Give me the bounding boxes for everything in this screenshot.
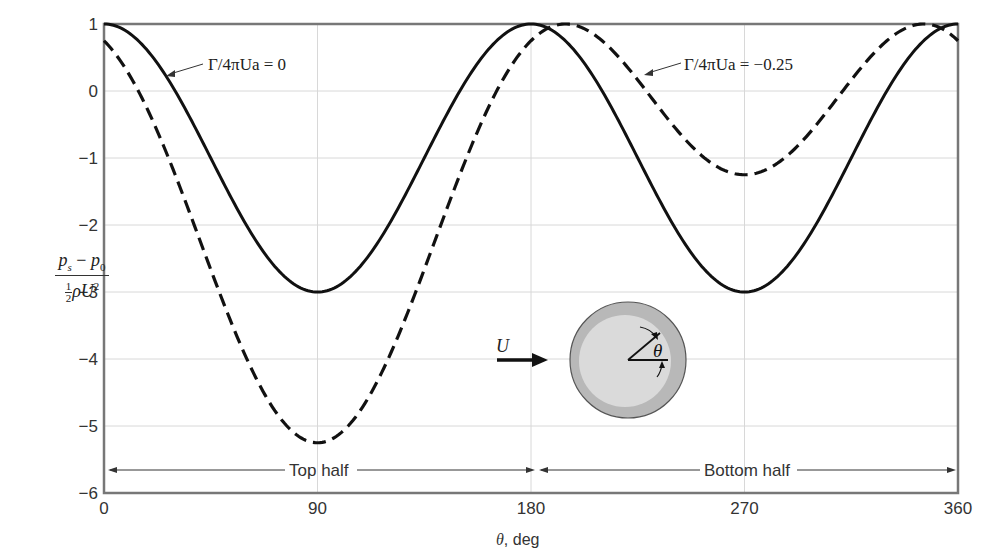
y-label-sup-2: 2 <box>94 280 100 292</box>
x-axis-label: θ, deg <box>496 531 539 549</box>
y-label-rho-u: ρU <box>72 281 94 301</box>
y-label-sub-0: 0 <box>100 261 106 273</box>
grid-lines <box>104 24 958 493</box>
arrow-left-icon <box>108 467 117 473</box>
annotation-solid: Γ/4πUa = 0 <box>166 55 286 77</box>
arrowhead-icon <box>532 353 548 367</box>
y-tick-label: −1 <box>79 149 98 168</box>
span-top-half: Top half <box>108 461 535 480</box>
x-label-theta: θ <box>496 531 504 548</box>
angle-label: θ <box>653 340 662 361</box>
x-tick-label: 270 <box>730 499 758 518</box>
x-axis-ticks: 090180270360 <box>99 499 972 518</box>
arrow-right-icon <box>947 467 956 473</box>
annotation-dashed: Γ/4πUa = −0.25 <box>644 55 793 76</box>
cylinder-inner <box>579 315 671 407</box>
x-tick-label: 180 <box>517 499 545 518</box>
x-tick-label: 0 <box>99 499 108 518</box>
span-bottom-half: Bottom half <box>539 461 956 480</box>
y-label-minus: − <box>72 250 91 270</box>
y-tick-label: −5 <box>79 417 98 436</box>
y-label-p0: p <box>91 250 100 270</box>
velocity-label: U <box>496 336 510 356</box>
y-tick-label: −2 <box>79 216 98 235</box>
y-tick-label: −6 <box>79 484 98 503</box>
chart-canvas: 10−1−2−3−4−5−6 090180270360 Γ/4πUa = 0 Γ… <box>0 0 988 555</box>
top-half-label: Top half <box>289 461 349 480</box>
arrowhead-icon <box>166 70 175 77</box>
x-label-unit: , deg <box>504 531 540 548</box>
arrow-left-icon <box>539 467 548 473</box>
y-axis-label: ps − p0 12ρU2 <box>40 250 124 304</box>
y-tick-label: 1 <box>89 15 98 34</box>
annotation-solid-label: Γ/4πUa = 0 <box>208 55 286 74</box>
y-label-p: p <box>59 250 68 270</box>
x-tick-label: 360 <box>944 499 972 518</box>
arrowhead-icon <box>644 69 653 76</box>
y-tick-label: −4 <box>79 350 98 369</box>
x-tick-label: 90 <box>308 499 327 518</box>
cylinder-inset: U θ <box>496 302 686 418</box>
y-tick-label: 0 <box>89 82 98 101</box>
bottom-half-label: Bottom half <box>704 461 790 480</box>
annotation-dashed-label: Γ/4πUa = −0.25 <box>684 55 793 74</box>
